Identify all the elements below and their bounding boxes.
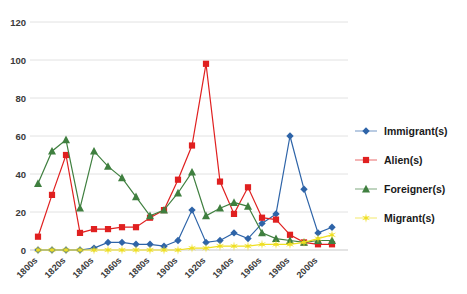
x-tick-label: 1840s [71,255,96,280]
x-tick-label: 1980s [267,255,292,280]
square-marker [119,224,125,230]
y-tick-label: 80 [15,93,26,104]
diamond-marker [272,210,279,217]
y-tick-label: 40 [15,169,26,180]
square-marker [77,230,83,236]
diamond-marker [174,237,181,244]
square-marker [231,211,237,217]
square-marker [49,192,55,198]
triangle-marker [62,136,70,144]
y-tick-label: 0 [21,245,26,256]
diamond-marker [286,132,293,139]
square-marker [91,226,97,232]
legend-item-foreigner-s[interactable]: Foreigner(s) [355,183,445,195]
chart-legend: Immigrant(s)Alien(s)Foreigner(s)Migrant(… [355,125,448,224]
triangle-marker [118,174,126,182]
legend-label: Alien(s) [384,154,423,166]
square-marker [273,217,279,223]
x-tick-label: 1860s [99,255,124,280]
triangle-marker [48,147,56,155]
triangle-marker [76,204,84,212]
legend-item-alien-s[interactable]: Alien(s) [355,154,423,166]
diamond-marker [328,224,335,231]
star-marker [328,230,336,239]
triangle-marker [174,189,182,197]
x-tick-label: 1920s [183,255,208,280]
square-marker [217,179,223,185]
x-tick-label: 1960s [239,255,264,280]
plot-series [34,61,336,255]
square-marker [133,224,139,230]
triangle-marker [90,147,98,155]
diamond-marker [230,229,237,236]
y-axis-tick-labels: 020406080100120 [10,17,26,256]
legend-item-immigrant-s[interactable]: Immigrant(s) [355,125,448,137]
legend-item-migrant-s[interactable]: Migrant(s) [355,212,435,224]
x-tick-label: 1940s [211,255,236,280]
square-marker [189,142,195,148]
x-axis-tick-labels: 1800s1820s1840s1860s1880s1900s1920s1940s… [15,255,320,280]
series-alien-s [35,61,335,248]
triangle-marker [258,229,266,237]
y-tick-label: 20 [15,207,26,218]
triangle-marker [202,212,210,220]
square-marker [105,226,111,232]
triangle-marker [230,198,238,206]
diamond-marker [118,239,125,246]
chart-canvas: 020406080100120 1800s1820s1840s1860s1880… [0,0,467,294]
legend-label: Migrant(s) [384,212,435,224]
square-marker [245,184,251,190]
square-marker [203,61,209,67]
y-tick-label: 60 [15,131,26,142]
diamond-marker [300,186,307,193]
series-line [38,140,332,243]
square-marker [259,215,265,221]
legend-label: Foreigner(s) [384,183,445,195]
legend-label: Immigrant(s) [384,125,448,137]
x-tick-label: 1900s [155,255,180,280]
triangle-marker [216,204,224,212]
diamond-marker [104,239,111,246]
square-marker [35,234,41,240]
line-chart: 020406080100120 1800s1820s1840s1860s1880… [0,0,467,294]
square-marker [175,177,181,183]
series-line [38,64,332,245]
x-tick-label: 1880s [127,255,152,280]
diamond-marker [362,127,369,134]
diamond-marker [188,206,195,213]
x-tick-label: 1820s [43,255,68,280]
x-tick-label: 2000s [295,255,320,280]
triangle-marker [188,168,196,176]
y-tick-label: 120 [10,17,26,28]
y-tick-label: 100 [10,55,26,66]
x-tick-label: 1800s [15,255,40,280]
square-marker [363,157,369,163]
triangle-marker [34,179,42,187]
